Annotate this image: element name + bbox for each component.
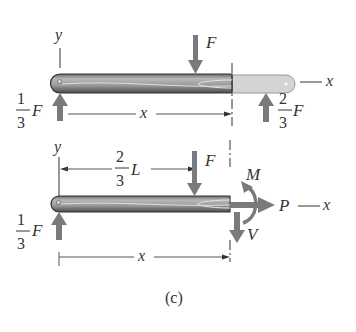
bottom-applied-load-arrow-icon <box>187 151 202 196</box>
bottom-load-label: F <box>204 151 216 170</box>
figure-caption: (c) <box>165 289 183 307</box>
top-x-label: x <box>325 72 333 89</box>
left-reaction-label: 1 3 F <box>16 90 43 131</box>
svg-text:2: 2 <box>279 90 287 107</box>
load-position-dimension: 2 3 L <box>60 148 196 189</box>
bottom-y-label: y <box>52 138 62 156</box>
left-reaction-arrow-icon <box>52 93 68 121</box>
applied-load-arrow-icon <box>188 35 203 74</box>
bottom-left-pin-icon <box>57 201 60 204</box>
bottom-x-label: x <box>322 196 330 213</box>
svg-text:1: 1 <box>17 211 25 228</box>
top-load-label: F <box>205 33 217 52</box>
svg-text:3: 3 <box>116 172 124 189</box>
top-section-dimension: x <box>68 104 232 121</box>
svg-text:F: F <box>292 101 304 120</box>
moment-label: M <box>245 165 261 184</box>
bottom-section-dimension: x <box>59 247 230 266</box>
shear-force-arrow-icon <box>229 212 245 243</box>
normal-force-arrow-icon <box>230 197 275 213</box>
svg-text:x: x <box>139 104 147 121</box>
top-y-label: y <box>53 26 63 44</box>
svg-text:1: 1 <box>17 90 25 107</box>
svg-text:F: F <box>31 221 43 240</box>
svg-text:3: 3 <box>17 114 25 131</box>
svg-text:2: 2 <box>116 148 124 165</box>
right-pin-icon <box>284 82 287 85</box>
bottom-left-reaction-label: 1 3 F <box>16 211 43 252</box>
svg-text:L: L <box>130 160 140 179</box>
svg-text:F: F <box>31 101 43 120</box>
svg-text:3: 3 <box>279 114 287 131</box>
svg-text:x: x <box>137 247 145 264</box>
normal-force-label: P <box>278 196 289 215</box>
bottom-diagram: y 2 3 L F <box>16 138 330 266</box>
right-reaction-arrow-icon <box>258 93 274 122</box>
shear-label: V <box>247 225 260 244</box>
left-pin-icon <box>58 80 61 83</box>
svg-text:3: 3 <box>17 235 25 252</box>
right-reaction-label: 2 3 F <box>278 90 304 131</box>
beam-free-body-diagram: y F 1 3 F <box>0 0 356 332</box>
top-diagram: y F 1 3 F <box>16 26 333 131</box>
bottom-left-reaction-arrow-icon <box>51 212 67 240</box>
